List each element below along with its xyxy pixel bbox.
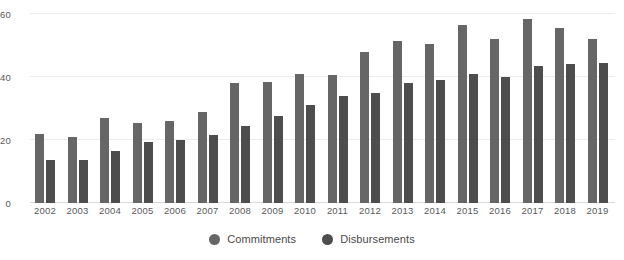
- bar-disbursements-2006[interactable]: [176, 140, 185, 203]
- bar-commitments-2019[interactable]: [588, 39, 597, 203]
- bar-group-2013: [393, 14, 413, 203]
- bar-disbursements-2007[interactable]: [209, 135, 218, 203]
- bar-group-2002: [35, 14, 55, 203]
- bar-commitments-2015[interactable]: [458, 25, 467, 203]
- bar-commitments-2012[interactable]: [360, 52, 369, 203]
- chart-legend: Commitments Disbursements: [0, 234, 624, 245]
- bar-disbursements-2017[interactable]: [534, 66, 543, 203]
- bar-group-2006: [165, 14, 185, 203]
- circle-marker-icon: [322, 234, 333, 245]
- bar-group-2003: [68, 14, 88, 203]
- bar-commitments-2013[interactable]: [393, 41, 402, 203]
- bar-commitments-2011[interactable]: [328, 75, 337, 203]
- bar-group-2019: [588, 14, 608, 203]
- bar-disbursements-2011[interactable]: [339, 96, 348, 203]
- bar-commitments-2017[interactable]: [523, 19, 532, 203]
- bar-disbursements-2015[interactable]: [469, 74, 478, 203]
- x-tick-label-2019: 2019: [578, 206, 618, 216]
- bar-group-2014: [425, 14, 445, 203]
- bar-group-2010: [295, 14, 315, 203]
- bar-disbursements-2002[interactable]: [46, 160, 55, 203]
- bar-disbursements-2016[interactable]: [501, 77, 510, 203]
- bar-group-2004: [100, 14, 120, 203]
- bar-disbursements-2008[interactable]: [241, 126, 250, 203]
- bar-commitments-2018[interactable]: [555, 28, 564, 203]
- y-tick-label-60: 60: [0, 10, 11, 20]
- y-tick-label-40: 40: [0, 73, 11, 83]
- bar-disbursements-2010[interactable]: [306, 105, 315, 203]
- legend-label-commitments: Commitments: [227, 234, 296, 245]
- legend-label-disbursements: Disbursements: [340, 234, 415, 245]
- bar-commitments-2007[interactable]: [198, 112, 207, 203]
- bar-commitments-2016[interactable]: [490, 39, 499, 203]
- bar-group-2015: [458, 14, 478, 203]
- bar-group-2008: [230, 14, 250, 203]
- bar-commitments-2005[interactable]: [133, 123, 142, 203]
- bar-group-2017: [523, 14, 543, 203]
- bar-commitments-2002[interactable]: [35, 134, 44, 203]
- bar-group-2018: [555, 14, 575, 203]
- bar-commitments-2014[interactable]: [425, 44, 434, 203]
- y-tick-label-0: 0: [0, 199, 11, 209]
- bar-commitments-2010[interactable]: [295, 74, 304, 203]
- legend-item-commitments[interactable]: Commitments: [209, 234, 296, 245]
- bar-group-2007: [198, 14, 218, 203]
- bar-chart: 6040200 20022003200420052006200720082009…: [0, 0, 624, 260]
- bar-disbursements-2018[interactable]: [566, 64, 575, 203]
- bar-disbursements-2005[interactable]: [144, 142, 153, 203]
- bar-commitments-2008[interactable]: [230, 83, 239, 203]
- bar-commitments-2004[interactable]: [100, 118, 109, 203]
- bar-group-2009: [263, 14, 283, 203]
- bar-group-2012: [360, 14, 380, 203]
- bar-commitments-2003[interactable]: [68, 137, 77, 203]
- bar-disbursements-2013[interactable]: [404, 83, 413, 203]
- bar-disbursements-2019[interactable]: [599, 63, 608, 203]
- bar-disbursements-2012[interactable]: [371, 93, 380, 203]
- bar-disbursements-2014[interactable]: [436, 80, 445, 203]
- bar-disbursements-2009[interactable]: [274, 116, 283, 203]
- legend-item-disbursements[interactable]: Disbursements: [322, 234, 415, 245]
- bar-group-2016: [490, 14, 510, 203]
- bar-commitments-2009[interactable]: [263, 82, 272, 203]
- bar-group-2011: [328, 14, 348, 203]
- plot-area: 6040200: [30, 14, 615, 203]
- bar-disbursements-2003[interactable]: [79, 160, 88, 203]
- bar-group-2005: [133, 14, 153, 203]
- bar-commitments-2006[interactable]: [165, 121, 174, 203]
- circle-marker-icon: [209, 234, 220, 245]
- y-tick-label-20: 20: [0, 136, 11, 146]
- bar-disbursements-2004[interactable]: [111, 151, 120, 203]
